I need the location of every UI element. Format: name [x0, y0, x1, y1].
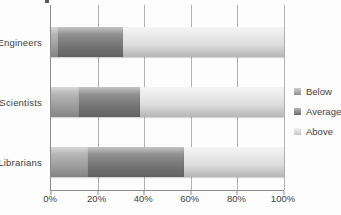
category-label: Engineers: [0, 27, 46, 57]
x-axis-tick-labels: 0%20%40%60%80%100%: [50, 193, 283, 207]
x-tick-label: 80%: [227, 193, 246, 204]
plot-area: [50, 5, 284, 191]
bar-segment: [51, 27, 58, 57]
bar-segment: [123, 27, 284, 57]
legend-item: Above: [294, 121, 341, 141]
bar-row: [51, 87, 284, 117]
legend: BelowAverageAbove: [294, 81, 341, 141]
bar-segment: [140, 87, 284, 117]
bar-segment: [51, 87, 79, 117]
bar-segment: [58, 27, 123, 57]
legend-label: Average: [306, 106, 341, 117]
x-tick-label: 60%: [180, 193, 199, 204]
category-label: Librarians: [0, 147, 46, 177]
bar-segment: [51, 147, 88, 177]
legend-swatch: [294, 128, 301, 135]
gridline: [284, 5, 285, 190]
bar-segment: [184, 147, 284, 177]
legend-swatch: [294, 108, 301, 115]
x-tick-label: 0%: [43, 193, 57, 204]
bar-segment: [88, 147, 184, 177]
legend-item: Below: [294, 81, 341, 101]
legend-item: Average: [294, 101, 341, 121]
category-label: Scientists: [0, 87, 46, 117]
x-tick-label: 40%: [134, 193, 153, 204]
x-tick-label: 20%: [87, 193, 106, 204]
bar-row: [51, 27, 284, 57]
legend-label: Above: [306, 126, 333, 137]
legend-label: Below: [306, 86, 332, 97]
x-tick-label: 100%: [271, 193, 295, 204]
cropped-title-mark: [45, 0, 49, 3]
stacked-bar-chart: 0%20%40%60%80%100% BelowAverageAbove Eng…: [0, 0, 341, 215]
legend-swatch: [294, 88, 301, 95]
bar-row: [51, 147, 284, 177]
bar-segment: [79, 87, 140, 117]
